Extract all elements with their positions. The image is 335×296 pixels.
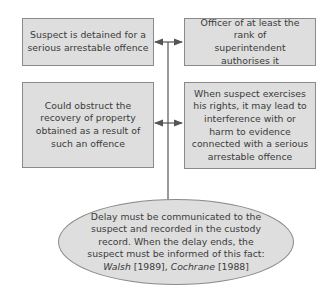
box-interference-evidence: When suspect exercises his rights, it ma… — [184, 82, 316, 169]
box-suspect-detained: Suspect is detained for a serious arrest… — [22, 18, 154, 66]
box-text: Suspect is detained for a serious arrest… — [27, 29, 149, 54]
ellipse-main-text: Delay must be communicated to the suspec… — [87, 211, 264, 260]
case-cochrane-year: [1988] — [218, 261, 249, 272]
ellipse-text: Delay must be communicated to the suspec… — [81, 211, 271, 274]
box-obstruct-recovery: Could obstruct the recovery of property … — [22, 82, 154, 168]
box-officer-authorises: Officer of at least the rank of superint… — [184, 18, 316, 66]
case-walsh-year: [1989], — [134, 261, 168, 272]
case-cochrane: Cochrane — [171, 261, 215, 272]
box-text: Could obstruct the recovery of property … — [35, 100, 141, 150]
ellipse-delay-communication: Delay must be communicated to the suspec… — [58, 199, 294, 285]
box-text: Officer of at least the rank of superint… — [199, 17, 301, 67]
case-walsh: Walsh — [103, 261, 131, 272]
box-text: When suspect exercises his rights, it ma… — [191, 88, 309, 164]
